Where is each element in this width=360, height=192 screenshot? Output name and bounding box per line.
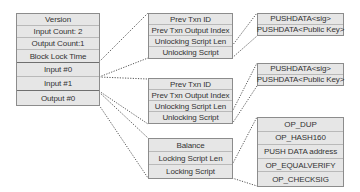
field-block-lock-time: Block Lock Time <box>17 50 99 63</box>
connector-input1-top <box>99 77 148 79</box>
op-pushdata-pubkey: PUSHDATA<Public Key> <box>258 75 343 86</box>
field-locking-script-len: Locking Script Len <box>149 152 232 165</box>
locking-script-box: OP_DUP OP_HASH160 PUSH DATA address OP_E… <box>257 117 344 187</box>
connector-script2-bottom <box>232 86 257 124</box>
field-output-0: Output #0 <box>17 91 99 105</box>
connector-output0-top <box>99 92 148 138</box>
op-pushdata-sig: PUSHDATA<sig> <box>258 64 343 75</box>
field-input-1: Input #1 <box>17 77 99 91</box>
connector-script2-top <box>232 63 257 112</box>
unlocking-script-0-box: PUSHDATA<sig> PUSHDATA<Public Key> <box>257 13 344 36</box>
field-input-0: Input #0 <box>17 63 99 77</box>
unlocking-script-1-box: PUSHDATA<sig> PUSHDATA<Public Key> <box>257 63 344 86</box>
field-version: Version <box>17 14 99 26</box>
op-equalverify: OP_EQUALVERIFY <box>258 159 343 173</box>
op-hash160: OP_HASH160 <box>258 132 343 146</box>
field-unlocking-script-len: Unlocking Script Len <box>149 101 232 112</box>
field-unlocking-script: Unlocking Script <box>149 112 232 123</box>
connector-input0-bottom <box>99 58 148 77</box>
field-balance: Balance <box>149 139 232 152</box>
op-dup: OP_DUP <box>258 118 343 132</box>
output-0-box: Balance Locking Script Len Locking Scrip… <box>148 138 233 179</box>
field-unlocking-script: Unlocking Script <box>149 47 232 58</box>
connector-input1-bottom <box>99 91 148 124</box>
input-0-box: Prev Txn ID Prev Txn Output Index Unlock… <box>148 13 233 59</box>
connector-input0-top <box>99 13 148 62</box>
connector-output0-bottom <box>99 105 148 178</box>
transaction-box: Version Input Count: 2 Output Count:1 Bl… <box>16 13 100 106</box>
field-locking-script: Locking Script <box>149 165 232 178</box>
connector-script1-bottom <box>232 36 257 58</box>
op-push-data-address: PUSH DATA address <box>258 145 343 159</box>
field-prev-txn-id: Prev Txn ID <box>149 79 232 90</box>
field-prev-txn-id: Prev Txn ID <box>149 14 232 25</box>
field-prev-txn-output-index: Prev Txn Output Index <box>149 25 232 36</box>
connector-locking-bottom <box>232 178 257 186</box>
field-output-count: Output Count:1 <box>17 38 99 50</box>
field-input-count: Input Count: 2 <box>17 26 99 38</box>
op-checksig: OP_CHECKSIG <box>258 172 343 186</box>
field-prev-txn-output-index: Prev Txn Output Index <box>149 90 232 101</box>
connector-locking-top <box>232 117 257 165</box>
input-1-box: Prev Txn ID Prev Txn Output Index Unlock… <box>148 78 233 124</box>
op-pushdata-sig: PUSHDATA<sig> <box>258 14 343 25</box>
op-pushdata-pubkey: PUSHDATA<Public Key> <box>258 25 343 36</box>
connector-script1-top <box>232 13 257 46</box>
field-unlocking-script-len: Unlocking Script Len <box>149 36 232 47</box>
